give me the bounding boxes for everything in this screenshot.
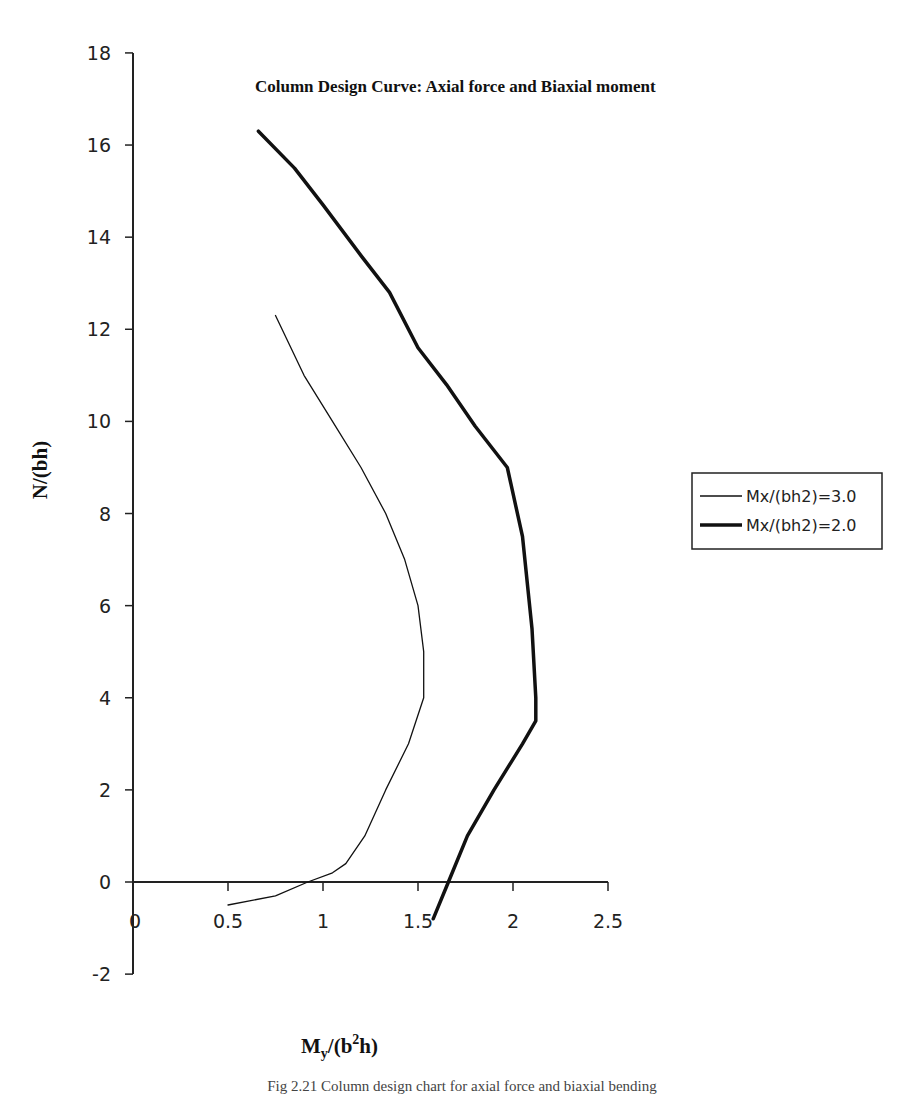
series-line bbox=[258, 131, 535, 919]
legend-box bbox=[692, 473, 882, 549]
x-tick-label: 0 bbox=[129, 910, 141, 932]
y-tick-label: 8 bbox=[99, 503, 111, 525]
y-tick-label: 12 bbox=[87, 318, 111, 340]
y-axis: -2024681012141618 bbox=[87, 42, 133, 985]
x-axis: 00.511.522.5 bbox=[129, 882, 623, 932]
y-tick-label: 18 bbox=[87, 42, 111, 64]
x-tick-label: 1.5 bbox=[403, 910, 433, 932]
series-layer bbox=[228, 131, 536, 919]
y-tick-label: 6 bbox=[99, 595, 111, 617]
chart: -2024681012141618 00.511.522.5 Column De… bbox=[0, 0, 924, 1094]
chart-title: Column Design Curve: Axial force and Bia… bbox=[255, 77, 656, 96]
x-axis-title: My/(b2h) bbox=[301, 1032, 378, 1061]
y-axis-title: N/(bh) bbox=[28, 441, 52, 499]
series-line bbox=[228, 316, 424, 906]
figure-caption: Fig 2.21 Column design chart for axial f… bbox=[0, 1078, 924, 1094]
x-tick-label: 1 bbox=[317, 910, 329, 932]
y-tick-label: 16 bbox=[87, 134, 111, 156]
y-tick-label: 2 bbox=[99, 779, 111, 801]
y-tick-label: 0 bbox=[99, 871, 111, 893]
y-tick-label: 10 bbox=[87, 410, 111, 432]
x-tick-label: 2.5 bbox=[593, 910, 623, 932]
y-tick-label: 14 bbox=[87, 226, 111, 248]
legend: Mx/(bh2)=3.0Mx/(bh2)=2.0 bbox=[692, 473, 882, 549]
x-tick-label: 0.5 bbox=[213, 910, 243, 932]
legend-label: Mx/(bh2)=3.0 bbox=[746, 487, 856, 506]
legend-label: Mx/(bh2)=2.0 bbox=[746, 516, 856, 535]
x-tick-label: 2 bbox=[507, 910, 519, 932]
y-tick-label: -2 bbox=[92, 963, 111, 985]
y-tick-label: 4 bbox=[99, 687, 111, 709]
